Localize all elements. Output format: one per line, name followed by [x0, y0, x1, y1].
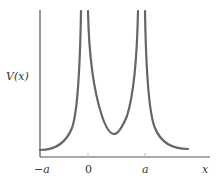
potential-curve-well — [88, 11, 138, 134]
x-axis-label: x — [202, 163, 209, 176]
potential-diagram: V(x) −a 0 a x — [0, 0, 223, 178]
potential-curve-right — [145, 11, 188, 149]
tick-label-neg-a: −a — [34, 163, 50, 176]
tick-label-a: a — [142, 163, 149, 176]
tick-label-zero: 0 — [85, 163, 92, 176]
y-axis-label: V(x) — [6, 70, 29, 83]
potential-curve-left — [40, 11, 81, 150]
